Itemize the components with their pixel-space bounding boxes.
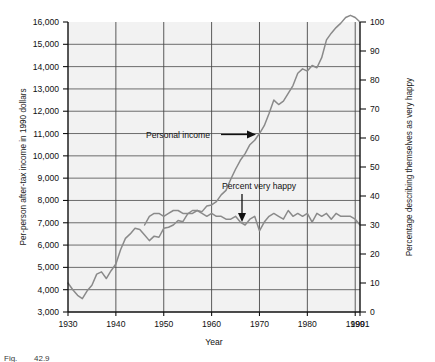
annotation-label-personal-income: Personal income [146,130,210,140]
tick-label-right: 60 [370,133,380,143]
tick-label-left: 4,000 [37,285,59,295]
tick-label-left: 14,000 [33,62,60,72]
tick-label-left: 3,000 [37,307,59,317]
tick-label-right: 0 [370,307,375,317]
tick-label-right: 80 [370,75,380,85]
tick-label-right: 30 [370,220,380,230]
tick-label-right: 50 [370,162,380,172]
tick-label-left: 10,000 [33,151,60,161]
left-axis-title: Per-person after-tax income in 1990 doll… [19,88,28,245]
tick-label-right: 20 [370,249,380,259]
tick-label-left: 15,000 [33,39,60,49]
tick-label-right: 100 [370,17,385,27]
figure-caption-prefix: Fig. [4,354,17,362]
tick-label-right: 40 [370,191,380,201]
tick-label-x: 1960 [202,319,221,329]
tick-label-right: 70 [370,104,380,114]
tick-label-left: 5,000 [37,262,59,272]
tick-label-left: 16,000 [33,17,60,27]
tick-label-right: 90 [370,46,380,56]
income-happiness-line-chart: 3,0004,0005,0006,0007,0008,0009,00010,00… [0,0,435,362]
tick-label-left: 8,000 [37,195,59,205]
tick-label-right: 10 [370,278,380,288]
tick-label-x: 1940 [106,319,125,329]
tick-label-x: 1970 [250,319,269,329]
tick-label-x: 1930 [58,319,77,329]
tick-label-left: 12,000 [33,106,60,116]
figure-caption-number: 42.9 [34,354,50,362]
tick-label-left: 6,000 [37,240,59,250]
tick-label-left: 9,000 [37,173,59,183]
right-axis-title: Percentage describing themselves as very… [405,77,414,256]
tick-label-left: 13,000 [33,84,60,94]
x-axis-title: Year [205,337,223,347]
annotation-label-percent-very-happy: Percent very happy [222,181,297,191]
tick-label-left: 11,000 [33,129,59,139]
tick-label-x: 1950 [154,319,173,329]
tick-label-x: 1991 [350,319,369,329]
figure-container: 3,0004,0005,0006,0007,0008,0009,00010,00… [0,0,435,362]
tick-label-left: 7,000 [37,218,59,228]
tick-label-x: 1980 [298,319,317,329]
